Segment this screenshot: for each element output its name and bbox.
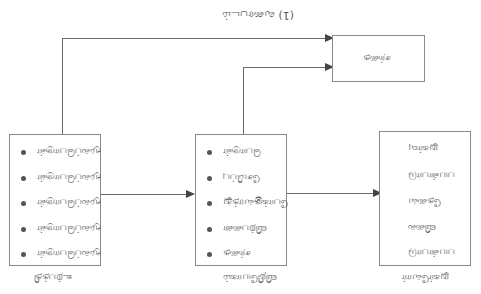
diagram-title: (1) வரைபடம் (222, 8, 294, 22)
right-item-2: பயன்பாடு (408, 169, 455, 182)
bullet-icon (207, 201, 212, 206)
connector-left-to-middle (101, 194, 189, 195)
middle-box-caption: விநியோகம் (223, 271, 277, 284)
left-item-4: மூலப்பொருள் (37, 222, 101, 235)
bullet-icon (207, 150, 212, 155)
left-item-5: மூலப்பொருள் (37, 247, 101, 260)
right-item-3: தேவை (408, 195, 441, 208)
arrowhead-to-middle-box (186, 190, 195, 198)
left-item-1: மூலப்பொருள் (37, 145, 101, 158)
connector-left-to-top-vertical (62, 38, 63, 134)
bullet-icon (21, 201, 26, 206)
right-item-5: பயன்பாடு (408, 246, 455, 259)
left-box-caption: உற்பத்தி (34, 271, 72, 284)
top-box-label: சந்தை (363, 52, 391, 65)
left-item-2: மூலப்பொருள் (37, 171, 101, 184)
left-item-3: மூலப்பொருள் (37, 196, 101, 209)
right-box: நுகர்வு பயன்பாடு தேவை விலை பயன்பாடு (379, 131, 471, 266)
connector-middle-to-top-horizontal (243, 67, 330, 68)
middle-item-5: சந்தை (223, 247, 251, 260)
bullet-icon (21, 150, 26, 155)
connector-middle-to-right (287, 193, 376, 194)
right-item-1: நுகர்வு (408, 142, 438, 155)
bullet-icon (207, 252, 212, 257)
middle-box: பொருள் சேமிப்பு போக்குவரத்து விற்பனை சந்… (195, 134, 287, 266)
bullet-icon (21, 176, 26, 181)
right-box-caption: நுகர்வோர் (402, 271, 449, 284)
bullet-icon (21, 227, 26, 232)
connector-left-to-top-horizontal (62, 38, 330, 39)
middle-item-4: விற்பனை (223, 222, 267, 235)
middle-item-3: போக்குவரத்து (223, 196, 288, 209)
top-box: சந்தை (332, 35, 425, 82)
left-box: மூலப்பொருள் மூலப்பொருள் மூலப்பொருள் மூலப… (9, 134, 101, 266)
bullet-icon (207, 227, 212, 232)
bullet-icon (207, 176, 212, 181)
right-item-4: விலை (408, 221, 436, 234)
middle-item-1: பொருள் (223, 145, 261, 158)
middle-item-2: சேமிப்பு (223, 171, 260, 184)
bullet-icon (21, 252, 26, 257)
connector-middle-to-top-vertical (243, 67, 244, 134)
